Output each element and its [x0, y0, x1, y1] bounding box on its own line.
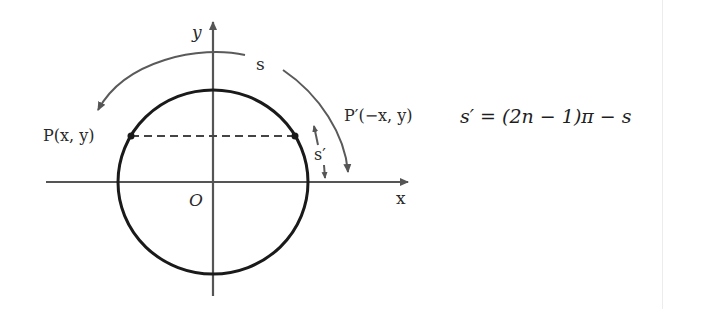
- point-p-label: P(x, y): [43, 126, 94, 145]
- page-edge-divider: [662, 0, 663, 309]
- arc-s-prime-down: [324, 165, 325, 178]
- point-p: [128, 133, 135, 140]
- arc-s-prime-label: s′: [314, 145, 326, 164]
- point-p-prime-label: P′(−x, y): [344, 106, 413, 125]
- formula: s′ = (2n − 1)π − s: [460, 105, 632, 127]
- point-p-prime: [292, 133, 299, 140]
- arc-s-left: [98, 52, 245, 110]
- y-axis-label: y: [191, 22, 202, 42]
- x-axis-label: x: [396, 188, 406, 208]
- unit-circle-diagram: y x O s s′ P(x, y) P′(−x, y): [0, 0, 715, 309]
- origin-label: O: [189, 190, 203, 210]
- arc-s-label: s: [256, 54, 265, 74]
- arc-s-prime-up: [314, 126, 318, 145]
